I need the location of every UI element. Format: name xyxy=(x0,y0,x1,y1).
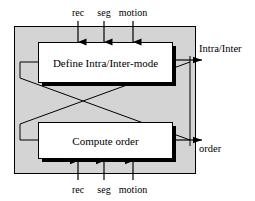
top-input-label-motion: motion xyxy=(119,7,147,18)
output-label-order: order xyxy=(199,143,222,154)
top-input-label-seg: seg xyxy=(97,7,110,18)
bottom-input-label-seg: seg xyxy=(97,184,110,195)
diagram-canvas: Define Intra/Inter-mode Compute order re… xyxy=(0,0,255,201)
bottom-input-label-motion: motion xyxy=(119,184,147,195)
bottom-input-label-rec: rec xyxy=(72,184,85,195)
block-diagram: Define Intra/Inter-mode Compute order re… xyxy=(0,0,255,201)
output-label-intra-inter: Intra/Inter xyxy=(199,43,242,54)
define-mode-box-label: Define Intra/Inter-mode xyxy=(53,57,158,69)
compute-order-box-label: Compute order xyxy=(72,135,139,147)
top-input-label-rec: rec xyxy=(72,7,85,18)
